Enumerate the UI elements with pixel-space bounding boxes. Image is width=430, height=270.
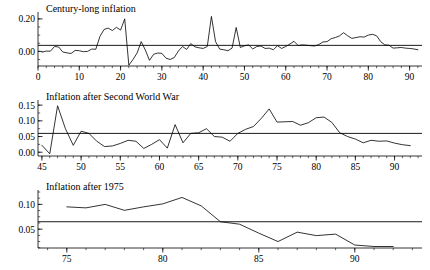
x-tick-label: 70 [322, 72, 332, 82]
x-tick-label: 65 [194, 162, 204, 172]
panel-title: Inflation after 1975 [46, 181, 124, 192]
x-tick-label: 0 [36, 72, 41, 82]
x-tick-label: 40 [198, 72, 208, 82]
y-tick-label: 0.10 [18, 116, 35, 126]
y-tick-label: 0.00 [18, 148, 35, 158]
panel-title: Century-long inflation [46, 3, 136, 14]
x-tick-label: 50 [76, 162, 86, 172]
y-tick-label: 0.15 [18, 101, 35, 111]
x-tick-label: 90 [350, 254, 360, 264]
x-tick-label: 80 [311, 162, 321, 172]
x-tick-label: 20 [116, 72, 126, 82]
x-tick-label: 90 [405, 72, 415, 82]
x-tick-label: 70 [233, 162, 243, 172]
x-tick-label: 10 [75, 72, 85, 82]
x-tick-label: 90 [390, 162, 400, 172]
y-tick-label: 0.20 [18, 14, 35, 24]
chart-panel-post-wwii: 455055606570758085900.000.050.100.15Infl… [0, 88, 430, 178]
series-line-inflation [42, 106, 410, 154]
x-tick-label: 85 [351, 162, 361, 172]
x-tick-label: 30 [157, 72, 167, 82]
x-tick-label: 45 [37, 162, 47, 172]
series-line-inflation [42, 16, 418, 65]
y-tick-label: 0.05 [18, 225, 35, 235]
x-tick-label: 75 [62, 254, 72, 264]
chart-svg-post-1975: 758085900.050.10Inflation after 1975 [0, 178, 430, 270]
x-tick-label: 60 [281, 72, 291, 82]
y-tick-label: 0.10 [18, 200, 35, 210]
y-tick-label: 0.00 [18, 47, 35, 57]
chart-panel-century-long: 01020304050607080900.000.20Century-long … [0, 0, 430, 88]
chart-panel-post-1975: 758085900.050.10Inflation after 1975 [0, 178, 430, 270]
x-tick-label: 85 [254, 254, 264, 264]
x-tick-label: 80 [158, 254, 168, 264]
x-tick-label: 55 [116, 162, 126, 172]
x-tick-label: 80 [364, 72, 374, 82]
x-tick-label: 75 [272, 162, 282, 172]
panel-title: Inflation after Second World War [46, 91, 180, 102]
chart-svg-post-wwii: 455055606570758085900.000.050.100.15Infl… [0, 88, 430, 178]
x-tick-label: 50 [240, 72, 250, 82]
y-tick-label: 0.05 [18, 132, 35, 142]
x-tick-label: 60 [155, 162, 165, 172]
figure-root: 01020304050607080900.000.20Century-long … [0, 0, 430, 270]
chart-svg-century-long: 01020304050607080900.000.20Century-long … [0, 0, 430, 88]
